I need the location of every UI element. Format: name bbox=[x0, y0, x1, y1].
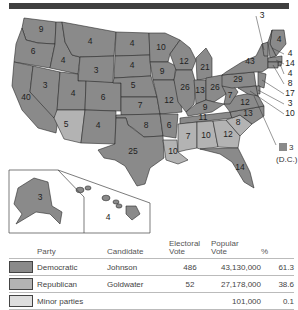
party-swatch-democratic bbox=[9, 261, 33, 273]
hawaii-island bbox=[85, 186, 91, 190]
ev-label-massachusetts: 14 bbox=[285, 58, 295, 68]
ev-label-indiana: 13 bbox=[195, 85, 205, 95]
ev-label-north-carolina: 13 bbox=[243, 108, 253, 118]
ev-label-alabama: 10 bbox=[201, 130, 211, 140]
ev-label-maine: 4 bbox=[277, 34, 282, 44]
ev-label-kansas: 7 bbox=[138, 100, 143, 110]
ev-label-oklahoma: 8 bbox=[144, 120, 149, 130]
header-popular: PopularVote bbox=[211, 240, 261, 259]
callout-line-new-jersey bbox=[262, 80, 284, 94]
ev-label-wyoming: 3 bbox=[94, 65, 99, 75]
ev-label-nebraska: 5 bbox=[131, 80, 136, 90]
cell-electoral: 486 bbox=[169, 259, 211, 276]
callout-line-connecticut bbox=[273, 65, 284, 84]
dc-ev-label: 3 bbox=[289, 143, 294, 152]
cell-percent: 38.6 bbox=[261, 276, 294, 293]
ev-label-maryland: 10 bbox=[285, 108, 295, 118]
ev-label-minnesota: 10 bbox=[156, 42, 166, 52]
ev-label-south-dakota: 4 bbox=[130, 60, 135, 70]
header-percent: % bbox=[261, 240, 294, 259]
ev-label-arkansas: 6 bbox=[167, 120, 172, 130]
ev-label-texas: 25 bbox=[128, 146, 138, 156]
callout-line-vermont bbox=[256, 16, 264, 50]
header-electoral: ElectoralVote bbox=[169, 240, 211, 259]
dc-swatch bbox=[279, 143, 287, 151]
cell-party: Republican bbox=[37, 276, 107, 293]
ev-label-louisiana: 10 bbox=[168, 146, 178, 156]
cell-candidate bbox=[107, 293, 169, 310]
ev-label-new-jersey: 17 bbox=[285, 88, 295, 98]
ev-label-georgia: 12 bbox=[223, 129, 233, 139]
ev-label-new-mexico: 4 bbox=[96, 120, 101, 130]
ev-label-mississippi: 7 bbox=[186, 131, 191, 141]
ev-label-iowa: 9 bbox=[160, 66, 165, 76]
cell-party: Democratic bbox=[37, 259, 107, 276]
state-arizona bbox=[54, 110, 85, 143]
cell-percent: 61.3 bbox=[261, 259, 294, 276]
cell-percent: 0.1 bbox=[261, 293, 294, 310]
ev-label-montana: 4 bbox=[88, 36, 93, 46]
ev-label-pennsylvania: 29 bbox=[233, 74, 243, 84]
cell-candidate: Johnson bbox=[107, 259, 169, 276]
ev-label-florida: 14 bbox=[235, 162, 245, 172]
ev-label-ohio: 26 bbox=[210, 82, 220, 92]
ev-label-missouri: 12 bbox=[164, 95, 174, 105]
hawaii-island bbox=[116, 204, 122, 208]
ev-label-new-hampshire: 4 bbox=[288, 48, 293, 58]
callout-line-rhode-island bbox=[280, 64, 284, 74]
ev-label-california: 40 bbox=[21, 92, 31, 102]
ev-label-new-york: 43 bbox=[245, 56, 255, 66]
cell-party: Minor parties bbox=[37, 293, 107, 310]
table-row: Democratic Johnson 486 43,130,000 61.3 bbox=[9, 259, 294, 276]
cell-popular: 101,000 bbox=[211, 293, 261, 310]
ev-label-arizona: 5 bbox=[64, 119, 69, 129]
state-hawaii bbox=[126, 206, 140, 220]
table-header-row: Party Candidate ElectoralVote PopularVot… bbox=[9, 240, 294, 259]
ev-label-alaska: 3 bbox=[38, 192, 43, 202]
cell-electoral bbox=[169, 293, 211, 310]
ev-label-connecticut: 8 bbox=[288, 78, 293, 88]
state-florida bbox=[200, 148, 254, 188]
ev-label-utah: 4 bbox=[71, 88, 76, 98]
ev-label-idaho: 4 bbox=[61, 55, 66, 65]
cell-popular: 27,178,000 bbox=[211, 276, 261, 293]
header-candidate: Candidate bbox=[107, 240, 169, 259]
cell-candidate: Goldwater bbox=[107, 276, 169, 293]
ev-label-kentucky: 9 bbox=[203, 102, 208, 112]
ev-label-virginia: 12 bbox=[240, 97, 250, 107]
ev-label-west-virginia: 7 bbox=[228, 90, 233, 100]
ev-label-tennessee: 11 bbox=[199, 112, 208, 122]
ev-label-colorado: 6 bbox=[101, 92, 106, 102]
table-row: Republican Goldwater 52 27,178,000 38.6 bbox=[9, 276, 294, 293]
dc-name-label: (D.C.) bbox=[276, 155, 298, 164]
ev-label-north-dakota: 4 bbox=[130, 38, 135, 48]
ev-label-oregon: 6 bbox=[31, 46, 36, 56]
hawaii-island bbox=[102, 195, 110, 201]
ev-label-vermont: 3 bbox=[260, 10, 265, 20]
party-swatch-republican bbox=[9, 278, 33, 290]
results-table: Party Candidate ElectoralVote PopularVot… bbox=[9, 240, 294, 310]
cell-electoral: 52 bbox=[169, 276, 211, 293]
ev-label-nevada: 3 bbox=[43, 80, 48, 90]
ev-label-hawaii: 4 bbox=[106, 212, 111, 222]
header-party: Party bbox=[37, 240, 107, 259]
ev-label-michigan: 21 bbox=[200, 62, 210, 72]
ev-label-rhode-island: 4 bbox=[288, 68, 293, 78]
ev-label-wisconsin: 12 bbox=[179, 56, 189, 66]
ev-label-washington: 9 bbox=[39, 24, 44, 34]
hawaii-island bbox=[113, 200, 119, 204]
party-swatch-minor bbox=[9, 295, 33, 307]
ev-label-south-carolina: 8 bbox=[236, 117, 241, 127]
table-row: Minor parties 101,000 0.1 bbox=[9, 293, 294, 310]
ev-label-illinois: 26 bbox=[180, 82, 190, 92]
electoral-map: 9640434345644457825109126101226211326911… bbox=[0, 0, 298, 240]
cell-popular: 43,130,000 bbox=[211, 259, 261, 276]
ev-label-delaware: 3 bbox=[288, 98, 293, 108]
